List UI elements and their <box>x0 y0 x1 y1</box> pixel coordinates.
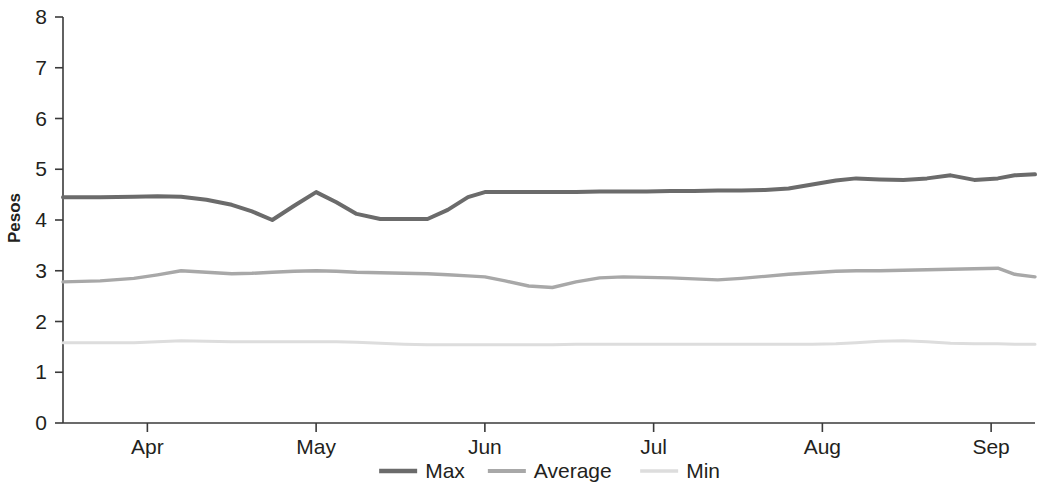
y-tick-label: 4 <box>35 208 47 231</box>
legend-label-average: Average <box>534 459 612 482</box>
y-tick-label: 7 <box>35 56 47 79</box>
x-tick-label: Jun <box>468 435 502 458</box>
y-tick-label: 0 <box>35 411 47 434</box>
y-tick-label: 5 <box>35 157 47 180</box>
x-tick-label: Aug <box>804 435 841 458</box>
series-line-max <box>63 174 1035 220</box>
y-tick-label: 1 <box>35 360 47 383</box>
legend-label-min: Min <box>686 459 720 482</box>
y-tick-label: 3 <box>35 259 47 282</box>
line-chart: 012345678 AprMayJunJulAugSep Pesos MaxAv… <box>0 0 1043 489</box>
y-tick-label: 2 <box>35 310 47 333</box>
y-tick-label: 6 <box>35 107 47 130</box>
x-tick-label: Jul <box>640 435 667 458</box>
x-axis: AprMayJunJulAugSep <box>63 423 1035 458</box>
y-axis: 012345678 <box>35 5 63 434</box>
series-line-min <box>63 341 1035 345</box>
legend-label-max: Max <box>425 459 465 482</box>
series-lines <box>63 174 1035 345</box>
x-tick-label: May <box>296 435 336 458</box>
x-tick-label: Sep <box>972 435 1009 458</box>
x-tick-label: Apr <box>131 435 164 458</box>
chart-legend: MaxAverageMin <box>379 459 720 482</box>
y-axis-title-label: Pesos <box>5 193 24 243</box>
chart-canvas: 012345678 AprMayJunJulAugSep Pesos MaxAv… <box>0 0 1043 489</box>
series-line-average <box>63 268 1035 287</box>
y-axis-title: Pesos <box>5 193 24 243</box>
y-tick-label: 8 <box>35 5 47 28</box>
